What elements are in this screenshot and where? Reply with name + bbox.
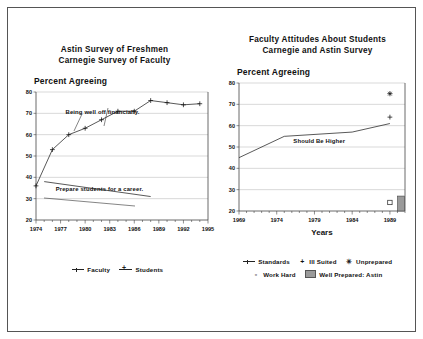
svg-text:60: 60 bbox=[26, 132, 32, 138]
legend-label-faculty: Faculty bbox=[87, 266, 110, 273]
svg-text:40: 40 bbox=[229, 165, 235, 171]
legend-label-well-prepared: Well Prepared: Astin bbox=[319, 271, 382, 278]
right-chart-legend-row1: Standards + Ill Suited ✳ Unprepared bbox=[217, 258, 418, 265]
left-chart-title-line1: Astin Survey of Freshmen bbox=[12, 44, 217, 55]
right-plot-area: 2030405060708019691974197919841989YearsS… bbox=[217, 77, 418, 252]
svg-text:20: 20 bbox=[26, 217, 32, 223]
svg-text:70: 70 bbox=[229, 101, 235, 107]
plus-line-marker-icon bbox=[119, 267, 132, 272]
left-chart-svg: 2030405060708019741977198019831986198919… bbox=[12, 86, 217, 246]
left-chart-legend: Faculty Students bbox=[12, 266, 217, 273]
left-chart-panel: Astin Survey of Freshmen Carnegie Survey… bbox=[12, 8, 217, 331]
svg-text:Years: Years bbox=[311, 228, 333, 237]
legend-label-standards: Standards bbox=[258, 258, 290, 265]
screenshot-root: Astin Survey of Freshmen Carnegie Survey… bbox=[0, 0, 423, 339]
svg-text:1995: 1995 bbox=[202, 226, 214, 232]
legend-label-ill-suited: Ill Suited bbox=[309, 258, 336, 265]
legend-label-work-hard: Work Hard bbox=[263, 271, 296, 278]
legend-item-well-prepared: Well Prepared: Astin bbox=[305, 270, 383, 278]
svg-text:1969: 1969 bbox=[233, 217, 245, 223]
left-chart-title: Astin Survey of Freshmen Carnegie Survey… bbox=[12, 44, 217, 66]
right-chart-legend-row2: ▫ Work Hard Well Prepared: Astin bbox=[217, 270, 418, 278]
right-chart-panel: Faculty Attitudes About Students Carnegi… bbox=[217, 8, 418, 331]
svg-text:1984: 1984 bbox=[346, 217, 359, 223]
svg-text:70: 70 bbox=[26, 110, 32, 116]
legend-label-students: Students bbox=[136, 266, 164, 273]
plus-marker-icon: + bbox=[299, 258, 306, 265]
svg-text:Prepare students for a career.: Prepare students for a career. bbox=[56, 186, 144, 192]
svg-text:80: 80 bbox=[229, 80, 235, 86]
left-axis-caption: Percent Agreeing bbox=[34, 76, 217, 86]
svg-text:1974: 1974 bbox=[271, 217, 284, 223]
figure-frame: Astin Survey of Freshmen Carnegie Survey… bbox=[7, 7, 416, 332]
svg-text:1989: 1989 bbox=[384, 217, 396, 223]
legend-item-unprepared: ✳ Unprepared bbox=[346, 258, 393, 265]
right-chart-title: Faculty Attitudes About Students Carnegi… bbox=[217, 34, 418, 56]
right-chart-title-line1: Faculty Attitudes About Students bbox=[217, 34, 418, 45]
svg-text:30: 30 bbox=[229, 187, 235, 193]
line-marker-icon bbox=[72, 269, 84, 270]
svg-text:1980: 1980 bbox=[79, 226, 91, 232]
square-marker-icon: ▫ bbox=[253, 271, 260, 278]
left-chart-title-line2: Carnegie Survey of Faculty bbox=[12, 55, 217, 66]
bar-marker-icon bbox=[305, 270, 316, 278]
right-axis-caption: Percent Agreeing bbox=[237, 67, 418, 77]
svg-text:1974: 1974 bbox=[30, 226, 43, 232]
svg-text:Being well off financially.: Being well off financially. bbox=[65, 109, 139, 115]
svg-text:80: 80 bbox=[26, 89, 32, 95]
legend-item-faculty: Faculty bbox=[72, 266, 110, 273]
line-marker-icon bbox=[243, 261, 255, 262]
right-chart-svg: 2030405060708019691974197919841989YearsS… bbox=[217, 77, 418, 252]
legend-label-unprepared: Unprepared bbox=[356, 258, 392, 265]
asterisk-marker-icon: ✳ bbox=[346, 258, 353, 265]
svg-text:1989: 1989 bbox=[153, 226, 165, 232]
legend-item-students: Students bbox=[119, 266, 163, 273]
svg-text:Should Be Higher: Should Be Higher bbox=[293, 138, 345, 144]
svg-text:1977: 1977 bbox=[54, 226, 66, 232]
svg-text:50: 50 bbox=[229, 144, 235, 150]
svg-text:1979: 1979 bbox=[308, 217, 320, 223]
legend-item-work-hard: ▫ Work Hard bbox=[253, 271, 296, 278]
svg-text:30: 30 bbox=[26, 196, 32, 202]
right-chart-title-line2: Carnegie and Astin Survey bbox=[217, 45, 418, 56]
legend-item-standards: Standards bbox=[243, 258, 290, 265]
svg-text:1992: 1992 bbox=[177, 226, 189, 232]
svg-text:20: 20 bbox=[229, 208, 235, 214]
svg-text:1983: 1983 bbox=[103, 226, 115, 232]
svg-text:50: 50 bbox=[26, 153, 32, 159]
svg-text:1986: 1986 bbox=[128, 226, 140, 232]
legend-item-ill-suited: + Ill Suited bbox=[299, 258, 337, 265]
left-plot-area: 2030405060708019741977198019831986198919… bbox=[12, 86, 217, 246]
svg-text:40: 40 bbox=[26, 174, 32, 180]
svg-text:60: 60 bbox=[229, 123, 235, 129]
